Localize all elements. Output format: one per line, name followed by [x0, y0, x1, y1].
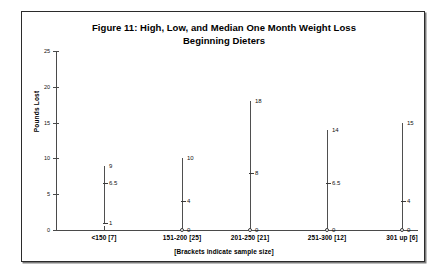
high-value-label-3: 14 [332, 127, 339, 133]
median-marker-0 [103, 183, 108, 184]
median-value-label-4: 4 [407, 198, 410, 204]
median-marker-4 [401, 201, 406, 202]
figure-root: Figure 11: High, Low, and Median One Mon… [0, 0, 444, 273]
y-tick-label-10: 10 [28, 155, 50, 161]
low-marker-circle-1 [180, 228, 184, 232]
low-value-label-1: 0 [187, 227, 190, 233]
y-tick-10 [53, 158, 59, 159]
range-line-4 [402, 123, 403, 230]
low-value-label-0: 1 [109, 220, 112, 226]
plot-area: Pounds Lost 0510152025 <150 [7]151-200 [… [22, 12, 426, 263]
y-tick-label-5: 5 [28, 191, 50, 197]
median-marker-1 [181, 201, 186, 202]
low-marker-tick-0 [103, 223, 108, 224]
low-marker-circle-3 [325, 228, 329, 232]
y-tick-label-20: 20 [28, 84, 50, 90]
range-line-0 [104, 166, 105, 223]
low-value-label-2: 0 [255, 227, 258, 233]
median-value-label-0: 6.5 [109, 180, 117, 186]
x-tick-label-0: <150 [7] [59, 234, 149, 241]
y-tick-15 [53, 123, 59, 124]
high-value-label-0: 9 [109, 163, 112, 169]
low-value-label-3: 0 [332, 227, 335, 233]
y-tick-label-0: 0 [28, 227, 50, 233]
range-line-1 [182, 158, 183, 230]
y-tick-label-25: 25 [28, 48, 50, 54]
high-value-label-4: 15 [407, 120, 414, 126]
low-marker-circle-4 [400, 228, 404, 232]
median-marker-2 [249, 173, 254, 174]
median-value-label-1: 4 [187, 198, 190, 204]
footnote: [Brackets indicate sample size] [22, 248, 426, 255]
figure-frame: Figure 11: High, Low, and Median One Mon… [21, 11, 425, 262]
high-value-label-2: 18 [255, 98, 262, 104]
x-tick-label-4: 301 up [6] [357, 234, 444, 241]
y-tick-25 [53, 51, 59, 52]
y-tick-label-15: 15 [28, 120, 50, 126]
y-tick-0 [53, 230, 59, 231]
range-line-3 [327, 130, 328, 230]
y-axis-line [56, 51, 57, 231]
y-tick-5 [53, 194, 59, 195]
y-axis-label: Pounds Lost [33, 82, 40, 142]
y-tick-20 [53, 87, 59, 88]
x-tick-0 [104, 226, 105, 231]
median-value-label-2: 8 [255, 170, 258, 176]
median-marker-3 [326, 183, 331, 184]
low-marker-circle-2 [248, 228, 252, 232]
x-axis-line [56, 230, 418, 231]
high-value-label-1: 10 [187, 155, 194, 161]
range-line-2 [250, 101, 251, 230]
median-value-label-3: 6.5 [332, 180, 340, 186]
low-value-label-4: 0 [407, 227, 410, 233]
